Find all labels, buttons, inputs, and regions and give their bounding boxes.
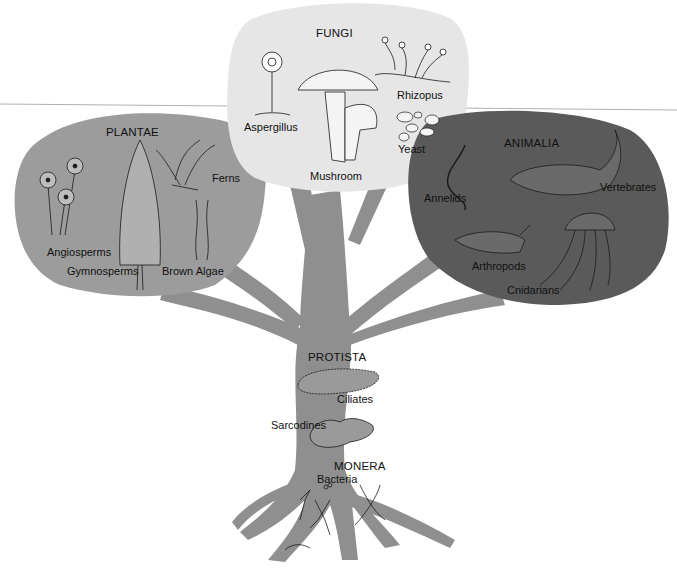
- gymnosperms-label: Gymnosperms: [67, 266, 139, 277]
- animalia-heading: ANIMALIA: [504, 138, 559, 150]
- sarcodines-label: Sarcodines: [271, 420, 326, 431]
- ferns-label: Ferns: [212, 173, 240, 184]
- bacteria-label: Bacteria: [317, 474, 357, 485]
- angiosperms-label: Angiosperms: [47, 247, 111, 258]
- arthropods-label: Arthropods: [472, 261, 526, 272]
- yeast-label: Yeast: [398, 144, 425, 155]
- annelids-label: Annelids: [424, 193, 466, 204]
- fungi-heading: FUNGI: [316, 28, 353, 40]
- mushroom-label: Mushroom: [310, 171, 362, 182]
- aspergillus-label: Aspergillus: [244, 122, 298, 133]
- tree-of-life-diagram: [0, 0, 677, 573]
- vertebrates-label: Vertebrates: [600, 182, 656, 193]
- brown-algae-label: Brown Algae: [162, 266, 224, 277]
- monera-heading: MONERA: [334, 461, 386, 473]
- plantae-heading: PLANTAE: [106, 127, 159, 139]
- rhizopus-label: Rhizopus: [397, 90, 443, 101]
- protista-heading: PROTISTA: [308, 352, 366, 364]
- ciliates-label: Ciliates: [337, 394, 373, 405]
- cnidarians-label: Cnidarians: [507, 285, 560, 296]
